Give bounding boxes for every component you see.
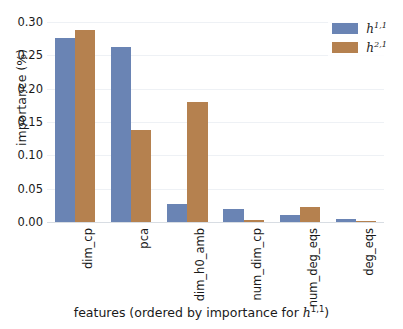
bar-group [167, 22, 207, 222]
bar-chart-figure: 0.000.050.100.150.200.250.30 importance … [0, 0, 403, 329]
x-tick-label: deg_eqs [362, 228, 376, 276]
bar-group [111, 22, 151, 222]
legend-item[interactable]: h2,1 [332, 38, 387, 57]
bar[interactable] [55, 38, 75, 222]
bar[interactable] [187, 102, 207, 222]
x-tick-label: num_deg_eqs [306, 228, 320, 307]
bar[interactable] [280, 215, 300, 222]
legend-swatch [332, 23, 358, 34]
bar[interactable] [300, 207, 320, 222]
x-tick-label: num_dim_cp [250, 228, 264, 301]
legend-item[interactable]: h1,1 [332, 19, 387, 38]
bar[interactable] [75, 30, 95, 222]
x-tick-label: pca [137, 228, 151, 249]
bar-group [280, 22, 320, 222]
bar-group [55, 22, 95, 222]
x-tick-label: dim_h0_amb [193, 228, 207, 301]
x-axis-title-math-base: h [303, 305, 311, 320]
bar[interactable] [223, 209, 243, 222]
legend-label: h2,1 [366, 41, 387, 55]
bar-group [223, 22, 263, 222]
y-tick-label: 0.00 [3, 215, 43, 229]
x-tick-label: dim_cp [81, 228, 95, 269]
x-axis-line [47, 222, 384, 223]
x-axis-title-math-sup: 1,1 [311, 304, 325, 314]
y-tick-label: 0.05 [3, 182, 43, 196]
bar[interactable] [111, 47, 131, 222]
bar[interactable] [131, 130, 151, 222]
legend-swatch [332, 42, 358, 53]
bar[interactable] [167, 204, 187, 222]
x-axis-title-tail: ) [324, 305, 329, 320]
legend: h1,1h2,1 [328, 17, 391, 59]
x-axis-title: features (ordered by importance for h1,1… [0, 305, 403, 320]
y-axis-title: importance (%) [14, 23, 29, 173]
x-axis-title-text: features (ordered by importance for [74, 305, 303, 320]
legend-label: h1,1 [366, 22, 387, 36]
